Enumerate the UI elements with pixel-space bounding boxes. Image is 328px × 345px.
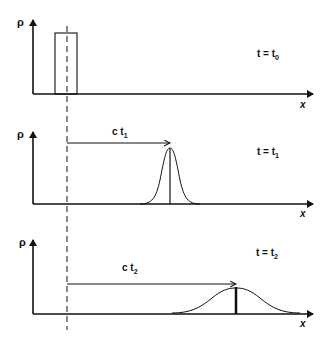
displacement-label: c t2 xyxy=(122,262,138,275)
y-axis-label: ρ xyxy=(17,128,24,140)
y-axis-label: ρ xyxy=(19,236,26,248)
x-axis-label: x xyxy=(299,208,306,219)
panel-t0: ρ x t = t0 xyxy=(17,16,313,110)
x-axis-label: x xyxy=(299,99,306,110)
rectangular-pulse xyxy=(55,33,77,94)
time-label: t = t1 xyxy=(257,146,279,159)
panel-t1: ρ x c t1 t = t1 xyxy=(17,126,313,219)
x-axis-label: x xyxy=(299,318,306,329)
wave-propagation-diagram: ρ x t = t0 ρ x c t1 t = t1 ρ x c t2 t = … xyxy=(0,0,328,345)
displacement-label: c t1 xyxy=(112,126,128,139)
panel-t2: ρ x c t2 t = t2 xyxy=(19,236,313,329)
time-label: t = t2 xyxy=(256,247,278,260)
time-label: t = t0 xyxy=(257,48,279,61)
y-axis-label: ρ xyxy=(17,16,24,28)
